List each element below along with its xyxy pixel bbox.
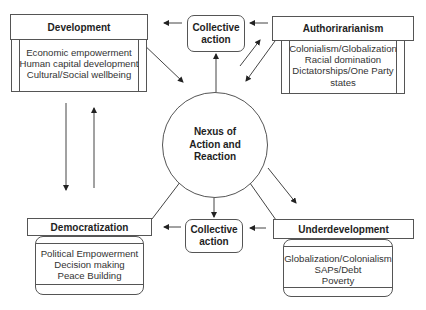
nexus-circle: Nexus of Action and Reaction bbox=[162, 92, 268, 198]
collective-action-bottom: Collective action bbox=[185, 219, 243, 253]
development-header: Development bbox=[10, 14, 148, 40]
development-title: Development bbox=[48, 22, 111, 33]
development-item: Human capital development bbox=[12, 58, 146, 69]
underdevelopment-body: Globalization/Colonialism SAPs/Debt Pove… bbox=[283, 239, 393, 297]
authoritarianism-item: Colonialism/Globalization bbox=[282, 43, 404, 54]
authoritarianism-item: Dictatorships/One Party bbox=[282, 65, 404, 76]
underdevelopment-item: SAPs/Debt bbox=[284, 264, 392, 275]
democratization-item: Peace Building bbox=[36, 270, 143, 281]
authoritarianism-item: Racial domination bbox=[282, 54, 404, 65]
underdevelopment-item: Poverty bbox=[284, 275, 392, 286]
arrow-authoritarianism-to-nexus bbox=[246, 41, 275, 81]
nexus-line: Reaction bbox=[189, 151, 241, 164]
authoritarianism-item: states bbox=[282, 77, 404, 88]
nexus-line: Action and bbox=[189, 139, 241, 152]
collective-top-line: action bbox=[192, 34, 239, 46]
nexus-line: Nexus of bbox=[189, 126, 241, 139]
authoritarianism-title: Authorirarianism bbox=[303, 23, 384, 34]
collective-bottom-line: Collective bbox=[190, 224, 237, 236]
underdevelopment-title: Underdevelopment bbox=[298, 224, 389, 235]
development-item: Economic empowerment bbox=[12, 47, 146, 58]
democratization-item: Decision making bbox=[36, 259, 143, 270]
underdevelopment-item: Globalization/Colonialism bbox=[284, 253, 392, 264]
authoritarianism-body: Colonialism/Globalization Racial dominat… bbox=[281, 40, 405, 94]
democratization-item: Political Empowerment bbox=[36, 248, 143, 259]
democratization-body: Political Empowerment Decision making Pe… bbox=[35, 236, 144, 295]
collective-top-line: Collective bbox=[192, 22, 239, 34]
underdevelopment-header: Underdevelopment bbox=[273, 219, 414, 239]
development-item: Cultural/Social wellbeing bbox=[12, 69, 146, 80]
democratization-title: Democratization bbox=[51, 222, 129, 233]
authoritarianism-header: Authorirarianism bbox=[272, 16, 414, 41]
arrow-toward-underdevelopment bbox=[268, 168, 296, 203]
development-body: Economic empowerment Human capital devel… bbox=[11, 38, 147, 92]
collective-action-top: Collective action bbox=[187, 15, 245, 52]
collective-bottom-line: action bbox=[190, 236, 237, 248]
democratization-header: Democratization bbox=[27, 218, 152, 236]
